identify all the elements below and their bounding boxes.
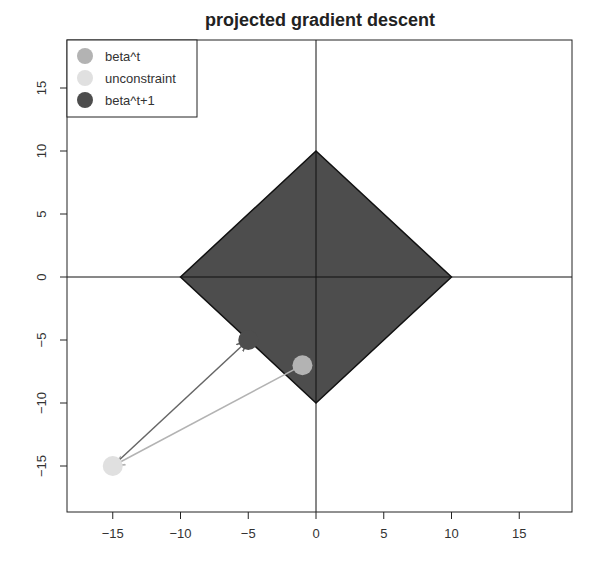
y-tick-label: 5 (34, 210, 49, 217)
y-tick-label: 15 (34, 81, 49, 95)
y-tick-label: −5 (34, 333, 49, 348)
x-tick-label: −15 (102, 526, 124, 541)
arrow-1 (113, 340, 249, 466)
point-beta-t (292, 355, 312, 375)
x-tick-label: −10 (169, 526, 191, 541)
arrow-0 (113, 365, 303, 466)
y-tick-label: 0 (34, 273, 49, 280)
legend-label: beta^t+1 (105, 93, 155, 108)
legend-label: beta^t (105, 49, 140, 64)
legend-marker (77, 70, 93, 86)
x-tick-label: −5 (241, 526, 256, 541)
plot-area: −15−10−5051015−15−10−5051015beta^tuncons… (0, 0, 603, 566)
x-tick-label: 10 (444, 526, 458, 541)
legend-marker (77, 48, 93, 64)
point-unconstraint (103, 456, 123, 476)
legend-label: unconstraint (105, 71, 176, 86)
y-tick-label: −10 (34, 392, 49, 414)
point-beta-t-1 (238, 330, 258, 350)
x-tick-label: 5 (380, 526, 387, 541)
x-tick-label: 15 (512, 526, 526, 541)
x-tick-label: 0 (312, 526, 319, 541)
y-tick-label: −15 (34, 455, 49, 477)
legend-marker (77, 92, 93, 108)
y-tick-label: 10 (34, 144, 49, 158)
